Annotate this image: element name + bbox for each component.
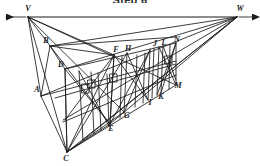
point-label-C: C [63,155,68,163]
point-label-M: M [174,82,181,90]
point-label-A: A [34,86,39,94]
point-label-H: H [125,45,131,53]
point-label-D: D [58,61,64,69]
point-label-J: J [153,40,157,48]
point-label-E: E [108,125,113,133]
extra-w-rays [83,17,237,140]
point-label-L: L [162,39,167,47]
point-label-F: F [113,46,118,54]
point-label-W: W [236,5,243,13]
point-label-I: I [148,99,151,107]
point-label-B: B [43,37,48,45]
point-label-V: V [25,5,30,13]
point-label-G: G [124,112,130,120]
construction-from-c [67,53,127,152]
point-label-K: K [158,93,163,101]
perspective-diagram [0,0,260,166]
point-label-N: N [174,36,180,44]
rays-from-w [41,17,237,152]
figure-canvas: Step 6 [0,0,260,166]
